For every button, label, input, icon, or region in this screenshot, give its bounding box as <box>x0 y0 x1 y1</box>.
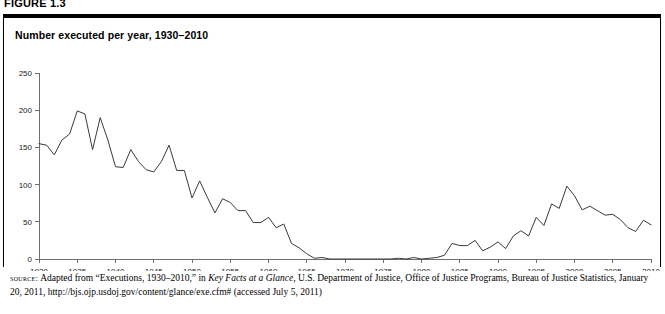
x-tick-label: 2010 <box>642 267 660 271</box>
y-tick-label: 0 <box>28 255 33 264</box>
data-series-line <box>39 111 651 259</box>
y-tick-label: 200 <box>19 106 33 115</box>
x-tick-label: 2000 <box>566 267 584 271</box>
figure-frame: Number executed per year, 1930–2010 0501… <box>3 14 661 267</box>
figure-page: FIGURE 1.3 Number executed per year, 193… <box>0 0 665 314</box>
x-tick-label: 1975 <box>374 267 392 271</box>
source-kicker: source: <box>10 273 38 283</box>
x-tick-label: 1935 <box>68 267 86 271</box>
y-tick-label: 50 <box>23 218 32 227</box>
executions-line-chart: 0501001502002501930193519401945195019551… <box>4 18 662 271</box>
x-tick-label: 1995 <box>527 267 545 271</box>
x-tick-label: 1980 <box>413 267 431 271</box>
x-tick-label: 1930 <box>30 267 48 271</box>
x-tick-label: 1950 <box>183 267 201 271</box>
x-tick-label: 1940 <box>107 267 125 271</box>
x-tick-label: 2005 <box>604 267 622 271</box>
y-tick-label: 250 <box>19 69 33 78</box>
x-tick-label: 1955 <box>221 267 239 271</box>
source-note: source: Adapted from “Executions, 1930–2… <box>10 272 655 299</box>
x-tick-label: 1970 <box>336 267 354 271</box>
x-tick-label: 1965 <box>298 267 316 271</box>
source-publication-title: Key Facts at a Glance <box>208 273 293 283</box>
x-tick-label: 1985 <box>451 267 469 271</box>
y-tick-label: 150 <box>19 143 33 152</box>
x-tick-label: 1990 <box>489 267 507 271</box>
figure-number-label: FIGURE 1.3 <box>4 0 66 9</box>
chart-plot-area: 0501001502002501930193519401945195019551… <box>4 18 662 271</box>
y-tick-label: 100 <box>19 181 33 190</box>
x-tick-label: 1945 <box>145 267 163 271</box>
source-text-part1: Adapted from “Executions, 1930–2010,” in <box>38 273 208 283</box>
x-tick-label: 1960 <box>260 267 278 271</box>
